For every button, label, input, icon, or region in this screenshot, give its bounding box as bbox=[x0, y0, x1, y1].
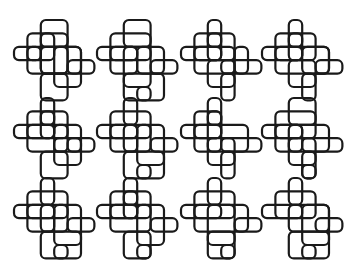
loop-segment bbox=[262, 47, 302, 60]
loop-segment bbox=[262, 205, 302, 218]
loop-segment bbox=[221, 138, 261, 151]
knot-tile-r3c4 bbox=[260, 176, 344, 260]
knot-tile-r3c3 bbox=[179, 176, 263, 260]
knot-shape bbox=[179, 96, 263, 180]
knot-pattern-sheet bbox=[0, 0, 360, 273]
knot-tile-r3c1 bbox=[12, 176, 96, 260]
loop-segment bbox=[221, 60, 261, 73]
loop-segment bbox=[14, 125, 54, 138]
knot-shape bbox=[12, 18, 96, 102]
knot-tile-r2c2 bbox=[95, 96, 179, 180]
loop-segment bbox=[14, 205, 54, 218]
knot-tile-r3c2 bbox=[95, 176, 179, 260]
loop-segment bbox=[97, 47, 137, 60]
knot-shape bbox=[179, 176, 263, 260]
loop-segment bbox=[137, 245, 150, 258]
loop-segment bbox=[181, 205, 221, 218]
knot-shape bbox=[260, 176, 344, 260]
loop-segment bbox=[181, 47, 221, 60]
knot-tile-r2c1 bbox=[12, 96, 96, 180]
loop-segment bbox=[302, 245, 315, 258]
knot-shape bbox=[179, 18, 263, 102]
knot-shape bbox=[12, 176, 96, 260]
loop-segment bbox=[181, 125, 221, 138]
knot-tile-r1c1 bbox=[12, 18, 96, 102]
knot-shape bbox=[95, 176, 179, 260]
knot-tile-r1c4 bbox=[260, 18, 344, 102]
knot-shape bbox=[95, 96, 179, 180]
loop-segment bbox=[97, 205, 137, 218]
knot-tile-r2c4 bbox=[260, 96, 344, 180]
loop-segment bbox=[262, 125, 302, 138]
knot-shape bbox=[95, 18, 179, 102]
loop-segment bbox=[97, 125, 137, 138]
knot-tile-r1c3 bbox=[179, 18, 263, 102]
knot-shape bbox=[12, 96, 96, 180]
loop-segment bbox=[54, 245, 67, 258]
loop-segment bbox=[221, 245, 234, 258]
knot-shape bbox=[260, 18, 344, 102]
knot-shape bbox=[260, 96, 344, 180]
knot-tile-r1c2 bbox=[95, 18, 179, 102]
knot-tile-r2c3 bbox=[179, 96, 263, 180]
loop-segment bbox=[208, 111, 221, 151]
loop-segment bbox=[302, 138, 342, 151]
